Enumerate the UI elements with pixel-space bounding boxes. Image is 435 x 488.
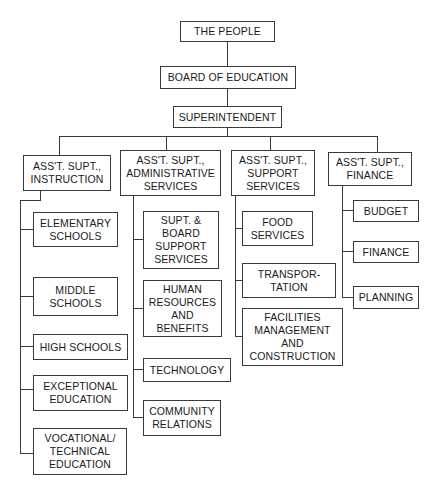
connector <box>20 229 33 230</box>
connector <box>342 185 343 297</box>
node-community-relations: COMMUNITY RELATIONS <box>143 400 221 436</box>
node-superintendent: SUPERINTENDENT <box>173 106 282 128</box>
connector <box>20 296 33 297</box>
node-technology: TECHNOLOGY <box>143 358 231 382</box>
connector <box>133 369 143 370</box>
connector <box>235 195 236 337</box>
node-vocational-technical-education: VOCATIONAL/ TECHNICAL EDUCATION <box>33 428 127 475</box>
connector <box>377 136 378 152</box>
connector <box>235 280 242 281</box>
node-high-schools: HIGH SCHOOLS <box>33 334 128 360</box>
node-transportation: TRANSPOR- TATION <box>242 263 336 298</box>
node-asst-supt-administrative: ASS'T. SUPT., ADMINISTRATIVE SERVICES <box>120 150 221 196</box>
node-finance: FINANCE <box>353 241 419 263</box>
node-board-of-education: BOARD OF EDUCATION <box>160 66 296 89</box>
node-the-people: THE PEOPLE <box>180 21 275 42</box>
connector <box>270 136 271 150</box>
connector <box>227 127 228 136</box>
connector <box>40 190 41 200</box>
connector <box>227 41 228 66</box>
connector <box>20 200 21 453</box>
node-exceptional-education: EXCEPTIONAL EDUCATION <box>33 375 128 411</box>
connector <box>20 200 41 201</box>
connector <box>133 195 134 417</box>
connector <box>59 136 378 137</box>
connector <box>133 239 143 240</box>
connector <box>133 417 143 418</box>
connector <box>235 336 242 337</box>
connector <box>166 136 167 150</box>
node-asst-supt-support: ASS'T. SUPT., SUPPORT SERVICES <box>231 150 315 196</box>
connector <box>342 210 353 211</box>
org-chart: THE PEOPLE BOARD OF EDUCATION SUPERINTEN… <box>0 0 435 488</box>
node-budget: BUDGET <box>353 200 419 222</box>
connector <box>59 136 60 155</box>
node-planning: PLANNING <box>353 286 419 309</box>
connector <box>20 346 33 347</box>
connector <box>342 297 353 298</box>
connector <box>20 389 33 390</box>
node-facilities-management: FACILITIES MANAGEMENT AND CONSTRUCTION <box>242 308 343 366</box>
node-asst-supt-finance: ASS'T. SUPT., FINANCE <box>328 152 412 186</box>
connector <box>342 251 353 252</box>
node-elementary-schools: ELEMENTARY SCHOOLS <box>33 212 118 247</box>
node-human-resources-benefits: HUMAN RESOURCES AND BENEFITS <box>143 280 222 337</box>
node-food-services: FOOD SERVICES <box>242 211 313 246</box>
connector <box>235 228 242 229</box>
connector <box>227 88 228 106</box>
node-supt-board-support-services: SUPT. & BOARD SUPPORT SERVICES <box>143 211 219 269</box>
connector <box>133 308 143 309</box>
connector <box>20 453 33 454</box>
node-middle-schools: MIDDLE SCHOOLS <box>33 277 118 316</box>
node-asst-supt-instruction: ASS'T. SUPT., INSTRUCTION <box>23 155 111 191</box>
